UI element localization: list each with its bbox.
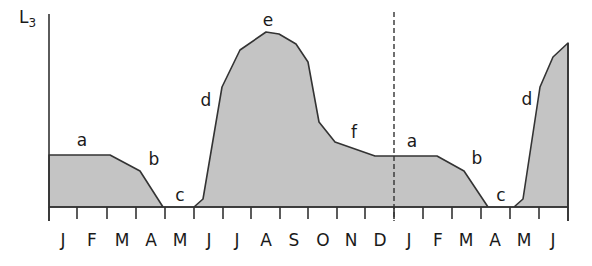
month-label: J bbox=[406, 230, 411, 250]
seasonal-area-chart bbox=[0, 0, 592, 266]
month-label: M bbox=[459, 230, 474, 250]
month-label: A bbox=[489, 230, 501, 250]
y-axis-label: L3 bbox=[19, 7, 36, 30]
month-label: F bbox=[433, 230, 443, 250]
month-label: O bbox=[316, 230, 329, 250]
month-label: J bbox=[234, 230, 239, 250]
label-e: e bbox=[263, 10, 273, 30]
area-fill bbox=[49, 32, 568, 207]
label-d: d bbox=[201, 90, 212, 110]
month-label: M bbox=[173, 230, 188, 250]
label-c-second: c bbox=[496, 185, 505, 205]
label-b: b bbox=[149, 149, 160, 169]
month-label: J bbox=[550, 230, 555, 250]
month-label: A bbox=[145, 230, 157, 250]
label-a-second: a bbox=[407, 131, 417, 151]
month-label: J bbox=[206, 230, 211, 250]
month-label: F bbox=[87, 230, 97, 250]
label-a: a bbox=[77, 130, 87, 150]
month-label: A bbox=[260, 230, 272, 250]
label-b-second: b bbox=[472, 148, 483, 168]
month-label: J bbox=[60, 230, 65, 250]
month-label: N bbox=[345, 230, 358, 250]
label-f: f bbox=[351, 122, 357, 142]
month-label: M bbox=[517, 230, 532, 250]
month-label: M bbox=[115, 230, 130, 250]
month-label: S bbox=[289, 230, 300, 250]
month-label: D bbox=[373, 230, 386, 250]
label-c: c bbox=[175, 185, 184, 205]
x-ticks bbox=[49, 207, 568, 221]
label-d-second: d bbox=[522, 89, 533, 109]
